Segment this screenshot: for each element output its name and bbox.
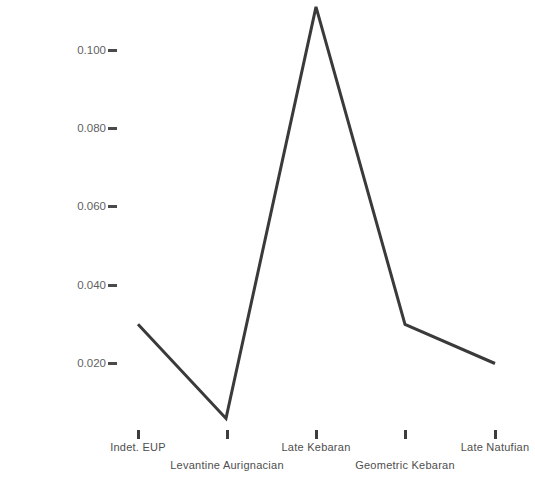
x-axis-label-late-kebaran: Late Kebaran bbox=[256, 441, 376, 453]
x-axis-tick-mark bbox=[404, 430, 407, 439]
data-series-line bbox=[138, 7, 495, 419]
x-axis-tick-mark bbox=[226, 430, 229, 439]
x-axis-tick-mark bbox=[315, 430, 318, 439]
x-axis-label-late-natufian: Late Natufian bbox=[437, 441, 535, 453]
x-axis-tick-mark bbox=[494, 430, 497, 439]
x-axis-tick-mark bbox=[137, 430, 140, 439]
x-axis-label-geometric-kebaran: Geometric Kebaran bbox=[339, 459, 471, 471]
x-axis-label-indet-eup: Indet. EUP bbox=[79, 441, 197, 453]
chart-figure: neo-cresting degree at bladelet producti… bbox=[0, 0, 535, 482]
x-axis-label-levantine-aurignacian: Levantine Aurignacian bbox=[152, 459, 302, 471]
plot-area bbox=[0, 0, 535, 482]
line-chart-svg bbox=[0, 0, 535, 482]
